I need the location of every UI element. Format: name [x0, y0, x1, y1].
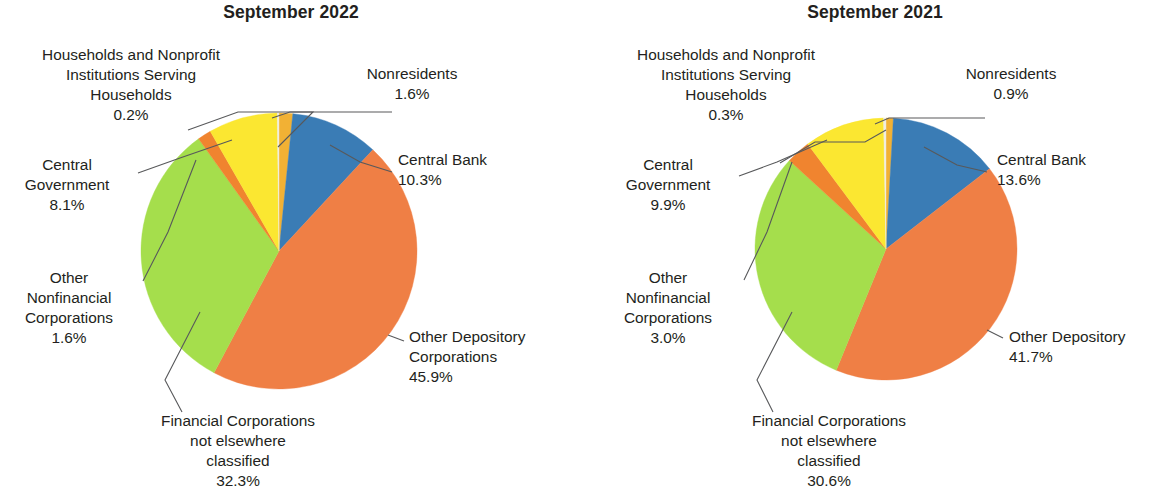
pie-slices-right	[755, 118, 1017, 380]
label-households-right: Households and Nonprofit Institutions Se…	[601, 45, 851, 125]
chart-panel-september-2021: September 2021 Households and Nonprofit …	[587, 0, 1173, 502]
label-financial-corporations-right: Financial Corporations not elsewhere cla…	[739, 411, 919, 491]
label-central-government-right: Central Government 9.9%	[605, 155, 731, 215]
label-central-bank-right: Central Bank 13.6%	[997, 150, 1172, 190]
label-nonresidents-right: Nonresidents 0.9%	[921, 64, 1101, 104]
leader-line-other-depository-left	[388, 335, 404, 341]
leader-line-other-depository-right	[987, 330, 1003, 338]
label-other-depository-left: Other Depository Corporations 45.9%	[409, 327, 584, 387]
label-central-government-left: Central Government 8.1%	[4, 155, 130, 215]
pie-slices-left	[141, 113, 417, 389]
label-financial-corporations-left: Financial Corporations not elsewhere cla…	[148, 411, 328, 491]
label-central-bank-left: Central Bank 10.3%	[398, 150, 573, 190]
label-households-left: Households and Nonprofit Institutions Se…	[6, 45, 256, 125]
chart-panel-september-2022: September 2022 Households and Nonprofit …	[0, 0, 586, 502]
label-nonresidents-left: Nonresidents 1.6%	[322, 64, 502, 104]
label-other-nonfinancial-left: Other Nonfinancial Corporations 1.6%	[6, 268, 132, 348]
label-other-nonfinancial-right: Other Nonfinancial Corporations 3.0%	[605, 268, 731, 348]
label-other-depository-right: Other Depository 41.7%	[1009, 327, 1173, 367]
